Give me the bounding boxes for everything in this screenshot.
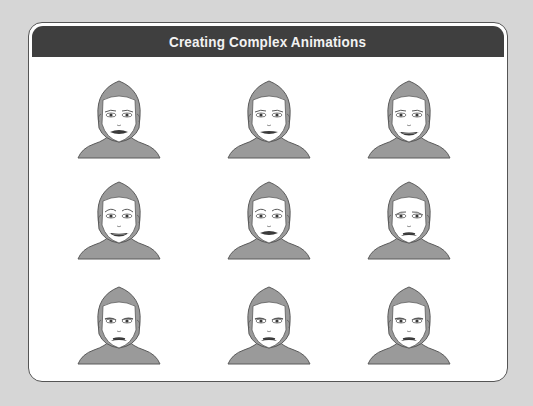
face-illustration-smile (366, 78, 452, 160)
face-illustration-neutral-slight-smile (226, 78, 312, 160)
face-illustration-frown (226, 284, 312, 366)
face-illustration-happy-raised-brows (76, 179, 162, 261)
face-drawing (366, 284, 452, 366)
face-drawing (366, 179, 452, 261)
face-drawing (76, 78, 162, 160)
face-drawing (76, 284, 162, 366)
face-drawing (226, 284, 312, 366)
figure-header: Creating Complex Animations (32, 26, 504, 57)
face-drawing (366, 78, 452, 160)
face-illustration-sad (366, 179, 452, 261)
face-illustration-neutral (76, 78, 162, 160)
face-illustration-neutral-raised-brows (226, 179, 312, 261)
face-drawing (76, 179, 162, 261)
figure-title: Creating Complex Animations (169, 33, 366, 50)
face-illustration-frown-angry (76, 284, 162, 366)
face-drawing (226, 78, 312, 160)
face-drawing (226, 179, 312, 261)
face-illustration-frown-sad (366, 284, 452, 366)
